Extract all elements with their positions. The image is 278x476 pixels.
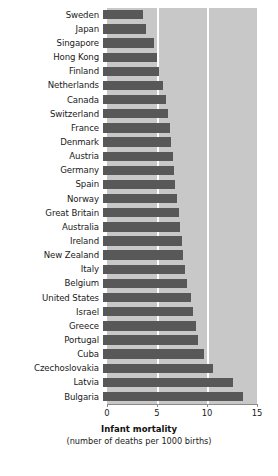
bar-row: Hong Kong (0, 50, 278, 64)
bar-cell (103, 248, 253, 262)
bar-row: Czechoslovakia (0, 362, 278, 376)
bar-cell (103, 333, 253, 347)
bar-row: Italy (0, 263, 278, 277)
bar-row: Australia (0, 220, 278, 234)
bar-cell (103, 50, 253, 64)
bar (103, 364, 213, 373)
category-label: United States (0, 294, 103, 303)
x-tick-label: 10 (202, 408, 213, 418)
bar-row: Great Britain (0, 206, 278, 220)
bar-cell (103, 206, 253, 220)
bar (103, 152, 173, 161)
bar-row: Ireland (0, 234, 278, 248)
bar-row: Bulgaria (0, 390, 278, 404)
bar (103, 38, 154, 47)
bar-cell (103, 121, 253, 135)
bar (103, 236, 182, 245)
bar (103, 208, 179, 217)
bar (103, 378, 233, 387)
category-label: Greece (0, 322, 103, 331)
bar (103, 137, 171, 146)
category-label: Latvia (0, 378, 103, 387)
bar-row: France (0, 121, 278, 135)
category-label: Norway (0, 195, 103, 204)
bar-cell (103, 220, 253, 234)
bar-rows: SwedenJapanSingaporeHong KongFinlandNeth… (0, 8, 278, 404)
x-tick-label: 0 (104, 408, 109, 418)
category-label: Bulgaria (0, 393, 103, 402)
category-label: Italy (0, 265, 103, 274)
bar (103, 335, 198, 344)
bar (103, 222, 180, 231)
bar (103, 321, 196, 330)
category-label: Great Britain (0, 209, 103, 218)
bar-cell (103, 178, 253, 192)
category-label: Austria (0, 152, 103, 161)
bar-cell (103, 22, 253, 36)
bar (103, 67, 159, 76)
category-label: Denmark (0, 138, 103, 147)
bar-row: Switzerland (0, 107, 278, 121)
category-label: Australia (0, 223, 103, 232)
x-tick-label: 5 (154, 408, 159, 418)
x-tick (157, 404, 158, 407)
bar (103, 123, 170, 132)
bar-cell (103, 319, 253, 333)
bar (103, 293, 191, 302)
bar-row: Norway (0, 192, 278, 206)
bar (103, 180, 175, 189)
bar-cell (103, 65, 253, 79)
x-tick (107, 404, 108, 407)
bar (103, 10, 143, 19)
bar-row: Canada (0, 93, 278, 107)
category-label: Germany (0, 166, 103, 175)
x-tick-label: 15 (252, 408, 263, 418)
bar-row: Greece (0, 319, 278, 333)
bar-cell (103, 263, 253, 277)
bar-cell (103, 347, 253, 361)
bar-cell (103, 8, 253, 22)
bar-cell (103, 362, 253, 376)
bar (103, 109, 168, 118)
bar (103, 166, 174, 175)
bar (103, 349, 204, 358)
bar-cell (103, 107, 253, 121)
bar (103, 265, 185, 274)
bar-row: Netherlands (0, 79, 278, 93)
category-label: Belgium (0, 279, 103, 288)
category-label: Portugal (0, 336, 103, 345)
bar-cell (103, 234, 253, 248)
bar (103, 24, 146, 33)
x-tick (257, 404, 258, 407)
bar-row: Sweden (0, 8, 278, 22)
bar-row: Spain (0, 178, 278, 192)
bar-cell (103, 390, 253, 404)
bar (103, 250, 183, 259)
category-label: Japan (0, 25, 103, 34)
bar (103, 53, 157, 62)
bar-row: Israel (0, 305, 278, 319)
bar-row: Austria (0, 149, 278, 163)
bar-row: Latvia (0, 376, 278, 390)
bar-cell (103, 291, 253, 305)
category-label: Canada (0, 96, 103, 105)
category-label: Czechoslovakia (0, 364, 103, 373)
bar (103, 95, 166, 104)
category-label: Hong Kong (0, 53, 103, 62)
x-tick (207, 404, 208, 407)
bar-cell (103, 79, 253, 93)
category-label: Ireland (0, 237, 103, 246)
bar-row: Cuba (0, 347, 278, 361)
bar (103, 194, 177, 203)
category-label: Spain (0, 180, 103, 189)
bar (103, 279, 187, 288)
bar-cell (103, 192, 253, 206)
infant-mortality-bar-chart: SwedenJapanSingaporeHong KongFinlandNeth… (0, 0, 278, 476)
category-label: Switzerland (0, 110, 103, 119)
bar (103, 392, 243, 401)
category-label: New Zealand (0, 251, 103, 260)
bar-row: Japan (0, 22, 278, 36)
x-axis-title: Infant mortality (0, 424, 278, 434)
bar-row: Finland (0, 65, 278, 79)
bar-cell (103, 36, 253, 50)
